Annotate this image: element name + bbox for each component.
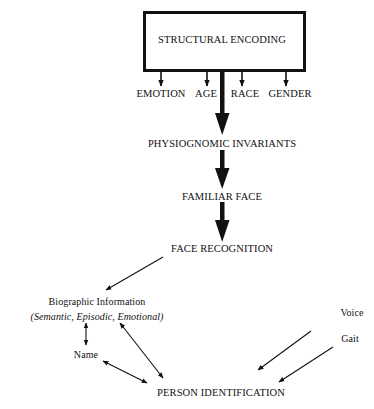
structural-encoding-label: STRUCTURAL ENCODING (158, 34, 286, 46)
voice-label: Voice (340, 307, 363, 319)
arrow-voice-to-person (258, 331, 311, 370)
arrow-to-biographic (106, 257, 163, 290)
name-label: Name (74, 349, 98, 361)
gender-label: GENDER (268, 88, 311, 100)
thick-arrow-to-physiognomic (215, 69, 230, 135)
person-identification-label: PERSON IDENTIFICATION (157, 387, 285, 399)
double-arrow-biographic-person (120, 323, 163, 378)
double-arrow-name-person (103, 361, 147, 383)
race-label: RACE (231, 88, 259, 100)
face-recognition-label: FACE RECOGNITION (171, 243, 273, 255)
arrow-gait-to-person (279, 347, 333, 382)
gait-label: Gait (341, 333, 359, 345)
biographic-subtitle-label: (Semantic, Episodic, Emotional) (30, 311, 163, 323)
thick-arrow-to-familiar-face (215, 150, 230, 189)
thick-arrow-to-face-recognition (215, 202, 230, 242)
biographic-information-label: Biographic Information (49, 296, 146, 308)
emotion-label: EMOTION (136, 88, 185, 100)
age-label: AGE (195, 88, 217, 100)
familiar-face-label: FAMILIAR FACE (182, 191, 262, 203)
physiognomic-invariants-label: PHYSIOGNOMIC INVARIANTS (148, 138, 296, 150)
